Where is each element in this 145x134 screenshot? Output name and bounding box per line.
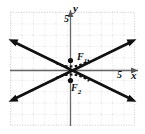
- focus-1-letter: F: [77, 51, 84, 62]
- y-axis-label: y: [73, 3, 78, 14]
- focus-1-label: F1: [77, 52, 87, 65]
- focus-2-letter: F: [71, 82, 78, 93]
- x-axis-label: x: [131, 70, 137, 81]
- focus-1-subscript: 1: [84, 57, 88, 65]
- grid-area: [11, 12, 135, 125]
- focus-2-label: F2: [71, 83, 81, 96]
- focus-1-marker: [68, 58, 73, 63]
- x-axis-tick-5: 5: [117, 70, 122, 80]
- y-axis-tick-5: 5: [64, 14, 69, 24]
- hyperbola-graph-figure: y x 5 5 F1 F2: [0, 0, 145, 134]
- plot-canvas: [0, 0, 145, 134]
- focus-2-subscript: 2: [78, 88, 82, 96]
